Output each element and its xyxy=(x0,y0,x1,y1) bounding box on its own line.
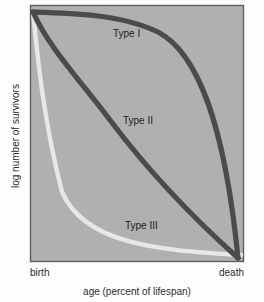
x-axis-title: age (percent of lifespan) xyxy=(83,286,191,297)
survivorship-curve-figure: Type I Type II Type III log number of su… xyxy=(0,0,264,302)
curve-label-type-ii: Type II xyxy=(123,115,153,126)
chart-svg: Type I Type II Type III log number of su… xyxy=(0,0,264,302)
x-axis-tick-birth: birth xyxy=(30,267,49,278)
curve-label-type-iii: Type III xyxy=(125,220,158,231)
x-axis-tick-death: death xyxy=(219,267,244,278)
y-axis-title: log number of survivors xyxy=(10,84,21,188)
curve-label-type-i: Type I xyxy=(113,28,140,39)
